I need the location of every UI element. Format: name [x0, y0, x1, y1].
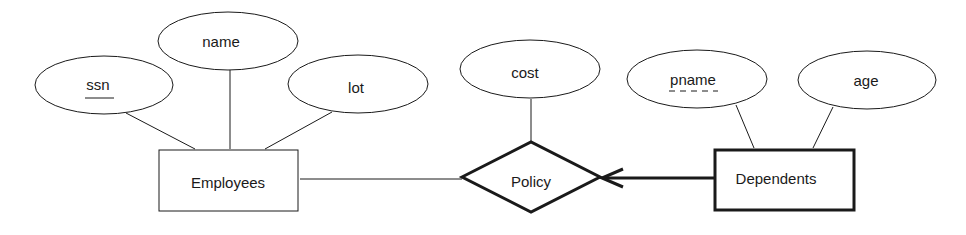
attribute-ssn: ssn — [35, 56, 173, 114]
attribute-age: age — [798, 51, 936, 109]
attribute-cost: cost — [460, 40, 600, 98]
attribute-label: ssn — [86, 76, 109, 93]
ssn-connector — [126, 113, 195, 149]
attribute-label: age — [853, 72, 878, 89]
lot-connector — [265, 112, 332, 149]
attribute-label: name — [202, 33, 240, 50]
entity-dependents: Dependents — [715, 150, 854, 210]
attribute-label: cost — [511, 64, 539, 81]
attribute-label: lot — [348, 79, 365, 96]
attribute-pname: pname — [627, 50, 767, 108]
attribute-lot: lot — [288, 55, 428, 113]
age-connector — [813, 107, 833, 148]
attribute-label: pname — [670, 71, 716, 88]
entity-label: Employees — [191, 174, 265, 191]
pname-connector — [736, 105, 754, 148]
entity-employees: Employees — [159, 150, 298, 211]
relationship-label: Policy — [511, 173, 552, 190]
attribute-name: name — [158, 12, 298, 70]
er-diagram: Employees ssn name lot Policy cost Depen… — [0, 0, 966, 235]
relationship-policy: Policy — [462, 142, 600, 212]
entity-label: Dependents — [736, 170, 817, 187]
